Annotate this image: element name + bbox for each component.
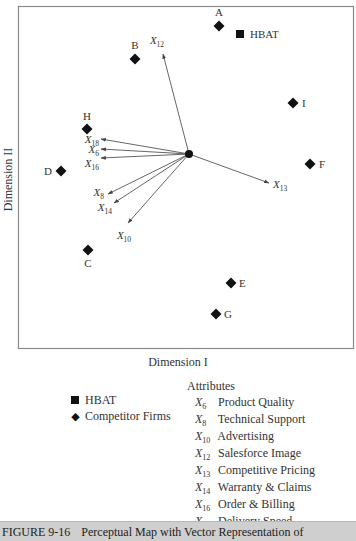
attribute-label: Technical Support (215, 412, 305, 426)
diamond-marker-icon: ◆ (70, 408, 81, 424)
firm-label: G (224, 308, 232, 320)
firm-label: HBAT (250, 28, 279, 40)
figure-number: FIGURE 9-16 (2, 525, 70, 539)
legend-attribute-x12: X12 Salesforce Image (187, 445, 315, 462)
square-marker-icon (236, 30, 244, 38)
figure-caption: FIGURE 9-16 Perceptual Map with Vector R… (0, 521, 356, 541)
perceptual-map: X12X18X6X16X8X14X10X13 HBATABCDEFGHI (0, 0, 356, 352)
legend-attribute-x10: X10 Advertising (187, 428, 315, 445)
x-axis-label: Dimension I (0, 355, 356, 370)
legend-attribute-x13: X13 Competitive Pricing (187, 462, 315, 479)
firm-label: H (83, 110, 91, 122)
attribute-label: Competitive Pricing (215, 463, 315, 477)
legend-item-competitors: ◆ Competitor Firms (70, 408, 171, 424)
firm-label: E (239, 277, 246, 289)
figure-title: Perceptual Map with Vector Representatio… (81, 525, 303, 539)
attribute-label: Advertising (215, 429, 274, 443)
legend-attribute-x14: X14 Warranty & Claims (187, 479, 315, 496)
square-marker-icon (71, 396, 79, 404)
legend-firms: HBAT ◆ Competitor Firms (70, 392, 171, 424)
legend-attribute-x8: X8 Technical Support (187, 411, 315, 428)
attribute-label: Order & Billing (215, 497, 295, 511)
firm-label: B (131, 39, 138, 51)
firm-label: D (44, 165, 52, 177)
attribute-label: Product Quality (215, 395, 294, 409)
vector-origin (185, 150, 193, 158)
attribute-label: Warranty & Claims (215, 480, 311, 494)
legend-attribute-x6: X6 Product Quality (187, 394, 315, 411)
firm-label: A (215, 6, 223, 18)
plot-frame (19, 7, 354, 349)
firm-label: I (302, 97, 306, 109)
y-axis-label: Dimension II (1, 132, 16, 228)
firm-label: F (319, 158, 325, 170)
legend-item-hbat: HBAT (70, 392, 171, 408)
legend-attributes-title: Attributes (187, 378, 315, 394)
attribute-label: Salesforce Image (215, 446, 301, 460)
firm-label: C (84, 257, 91, 269)
legend-attributes: Attributes X6 Product QualityX8 Technica… (187, 378, 315, 530)
legend-attribute-x16: X16 Order & Billing (187, 496, 315, 513)
legend-label: HBAT (85, 392, 116, 408)
legend-label: Competitor Firms (85, 408, 171, 424)
